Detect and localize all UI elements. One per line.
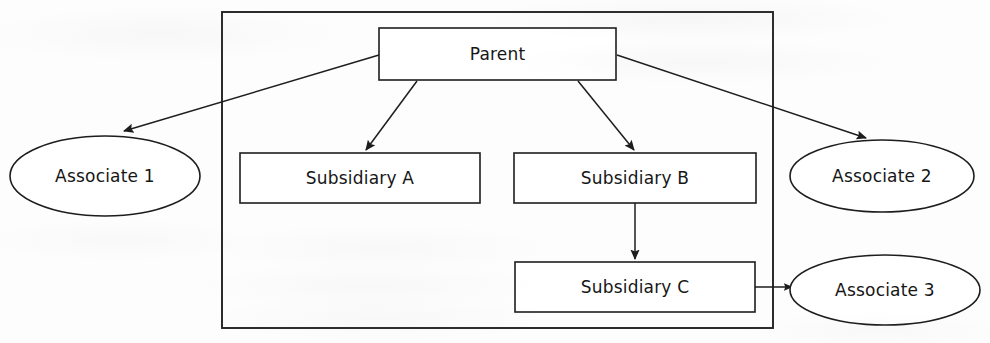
edge-parent-to-subsidiary-b (578, 81, 634, 150)
associate-1-label: Associate 1 (55, 166, 155, 186)
node-layer: Parent Subsidiary A Subsidiary B Subsidi… (10, 28, 980, 325)
edge-parent-to-associate-2 (617, 55, 866, 138)
subsidiary-b-label: Subsidiary B (581, 168, 689, 188)
node-subsidiary-b[interactable]: Subsidiary B (514, 153, 756, 203)
associate-2-label: Associate 2 (832, 166, 932, 186)
edge-parent-to-subsidiary-a (366, 81, 417, 150)
node-associate-2[interactable]: Associate 2 (790, 140, 974, 212)
org-chart-svg: Parent Subsidiary A Subsidiary B Subsidi… (0, 0, 990, 343)
diagram-canvas: Parent Subsidiary A Subsidiary B Subsidi… (0, 0, 990, 343)
edge-parent-to-associate-1 (124, 55, 379, 131)
subsidiary-a-label: Subsidiary A (306, 168, 415, 188)
node-associate-1[interactable]: Associate 1 (10, 136, 200, 216)
node-associate-3[interactable]: Associate 3 (790, 255, 980, 325)
node-subsidiary-a[interactable]: Subsidiary A (240, 153, 480, 203)
node-parent[interactable]: Parent (379, 28, 616, 80)
node-subsidiary-c[interactable]: Subsidiary C (515, 262, 755, 312)
parent-label: Parent (470, 44, 526, 64)
subsidiary-c-label: Subsidiary C (581, 277, 690, 297)
associate-3-label: Associate 3 (835, 280, 935, 300)
